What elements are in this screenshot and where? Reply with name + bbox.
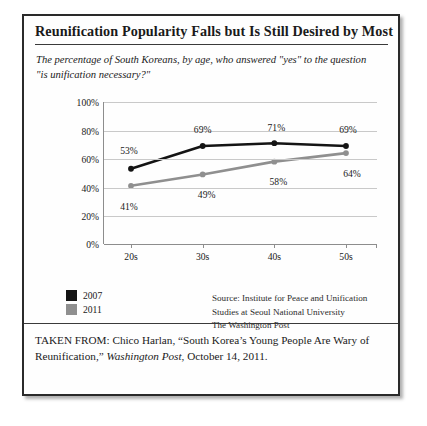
x-axis-tick-label: 40s	[268, 251, 281, 262]
legend-item-2007[interactable]: 2007	[66, 290, 102, 301]
x-axis-tick-mark	[274, 244, 275, 248]
series-lines	[104, 102, 377, 244]
chart-meta: 20072011 Source: Institute for Peace and…	[24, 290, 398, 336]
y-axis-tick-label: 0%	[86, 239, 99, 250]
figure-panel: Reunification Popularity Falls but Is St…	[22, 14, 400, 396]
line-chart: 0%20%40%60%80%100%20s30s40s50s53%69%71%6…	[24, 88, 398, 264]
x-axis-tick-label: 50s	[339, 251, 352, 262]
data-label: 53%	[120, 145, 138, 156]
data-point-marker	[271, 141, 277, 147]
data-label: 69%	[339, 124, 357, 135]
legend-swatch	[66, 290, 77, 301]
source-line: Studies at Seoul National University	[212, 306, 367, 319]
x-axis-tick-mark	[346, 244, 347, 248]
legend-swatch	[66, 304, 77, 315]
data-point-marker	[343, 144, 349, 150]
data-label: 41%	[120, 201, 138, 212]
data-label: 69%	[194, 124, 212, 135]
gridline	[104, 216, 377, 217]
data-point-marker	[128, 166, 134, 172]
citation-publication: Washington Post	[106, 350, 181, 362]
plot-area: 0%20%40%60%80%100%20s30s40s50s53%69%71%6…	[103, 102, 377, 244]
footer-divider	[24, 323, 398, 324]
x-axis-end-tick	[376, 244, 377, 248]
x-axis-tick-label: 30s	[196, 251, 209, 262]
chart-legend: 20072011	[66, 290, 102, 318]
y-axis-tick-label: 20%	[81, 210, 99, 221]
x-axis-tick-mark	[131, 244, 132, 248]
data-point-marker	[343, 151, 349, 157]
taken-from-citation: TAKEN FROM: Chico Harlan, “South Korea’s…	[35, 332, 387, 364]
source-note: Source: Institute for Peace and Unificat…	[212, 292, 367, 332]
x-axis-tick-label: 20s	[124, 251, 137, 262]
data-label: 64%	[343, 167, 361, 178]
figure-subtitle: The percentage of South Koreans, by age,…	[24, 45, 398, 82]
data-point-marker	[200, 144, 206, 150]
legend-item-2011[interactable]: 2011	[66, 304, 102, 315]
data-label: 49%	[198, 188, 216, 199]
data-label: 58%	[270, 176, 288, 187]
legend-label: 2011	[83, 304, 102, 315]
source-line: Source: Institute for Peace and Unificat…	[212, 292, 367, 305]
legend-label: 2007	[83, 290, 102, 301]
x-axis-tick-mark	[203, 244, 204, 248]
gridline	[104, 159, 377, 160]
y-axis-tick-label: 40%	[81, 182, 99, 193]
figure-title: Reunification Popularity Falls but Is St…	[24, 16, 398, 39]
gridline	[104, 244, 377, 245]
y-axis-tick-label: 80%	[81, 125, 99, 136]
y-axis-tick-label: 60%	[81, 154, 99, 165]
gridline	[104, 102, 377, 103]
gridline	[104, 131, 377, 132]
data-point-marker	[200, 172, 206, 178]
gridline	[104, 188, 377, 189]
y-axis-tick-label: 100%	[77, 97, 99, 108]
data-label: 71%	[268, 121, 286, 132]
source-line: The Washington Post	[212, 319, 367, 332]
